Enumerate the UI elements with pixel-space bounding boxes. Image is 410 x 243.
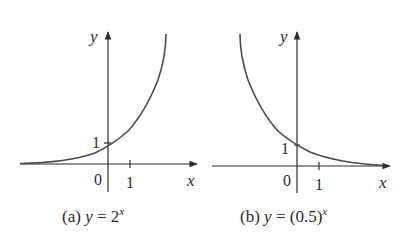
- graph-b-y-tick-label-1: 1: [281, 141, 289, 157]
- graph-a-x-axis-label: x: [187, 172, 195, 189]
- graph-a-caption-exponent: x: [119, 205, 124, 217]
- graph-b-caption-base: (0.5): [290, 207, 323, 226]
- graph-a-caption-base: 2: [111, 207, 120, 226]
- graph-b-caption: (b) y = (0.5)x: [240, 206, 327, 225]
- graph-b-x-axis-label: x: [379, 174, 387, 191]
- graph-a: [20, 32, 197, 192]
- graph-b-caption-y: y: [264, 207, 272, 226]
- graph-b-y-axis-label: y: [280, 28, 288, 45]
- graph-a-y-axis-label: y: [90, 28, 98, 45]
- graph-b-origin-label: 0: [283, 173, 291, 189]
- graph-a-y-tick-label-1: 1: [92, 135, 100, 151]
- graph-a-caption-y: y: [85, 207, 93, 226]
- graph-b: [212, 32, 390, 193]
- graph-b-caption-exponent: x: [322, 205, 327, 217]
- graph-a-origin-label: 0: [94, 172, 102, 188]
- graph-a-caption-prefix: (a): [62, 207, 81, 226]
- graph-b-x-tick-label-1: 1: [315, 177, 323, 193]
- graph-a-caption: (a) y = 2x: [62, 206, 124, 225]
- graph-b-curve: [240, 34, 385, 166]
- graph-a-x-tick-label-1: 1: [126, 175, 134, 191]
- graph-b-caption-prefix: (b): [240, 207, 260, 226]
